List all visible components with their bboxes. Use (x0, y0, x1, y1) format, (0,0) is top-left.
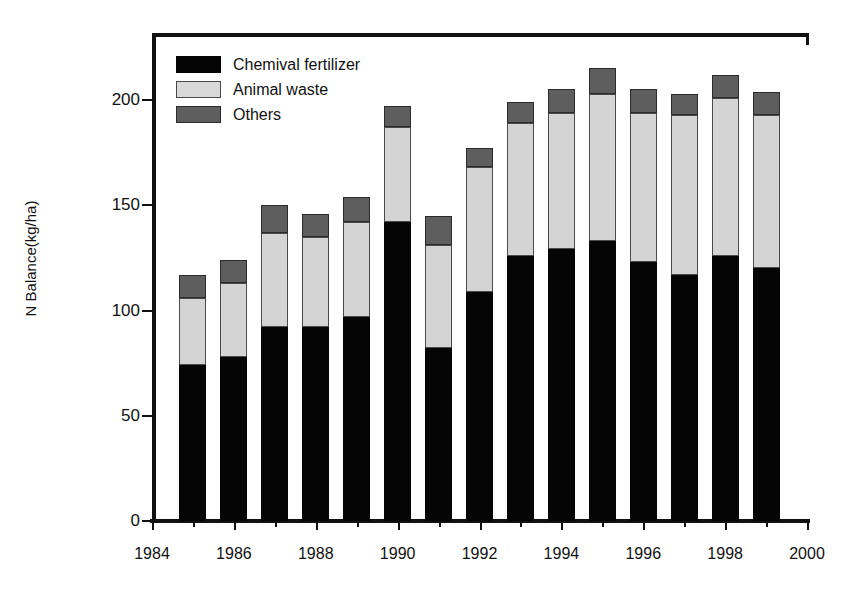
bar-segment-1988-fert (302, 327, 329, 521)
bar-segment-1992-fert (466, 292, 493, 521)
bar-segment-1995-fert (589, 241, 616, 521)
bar-1994 (548, 89, 575, 521)
bar-segment-1997-fert (671, 275, 698, 521)
x-tick-label-1984: 1984 (117, 545, 187, 563)
x-tick-2000 (807, 521, 809, 530)
bar-1987 (261, 205, 288, 521)
x-tick-label-1990: 1990 (363, 545, 433, 563)
bar-1986 (220, 260, 247, 521)
bar-segment-1989-fert (343, 317, 370, 521)
bar-segment-1986-animal (220, 283, 247, 357)
x-tick-1986 (234, 521, 236, 530)
x-minor-tick-1991 (439, 521, 441, 527)
legend-swatch-icon-animal (176, 81, 221, 98)
x-minor-tick-1987 (275, 521, 277, 527)
bar-segment-1997-animal (671, 115, 698, 275)
bar-1998 (712, 75, 739, 521)
x-minor-tick-1999 (766, 521, 768, 527)
bar-1993 (507, 102, 534, 521)
bar-segment-1999-fert (753, 268, 780, 521)
bar-segment-1994-animal (548, 113, 575, 250)
legend-label-1: Animal waste (233, 81, 328, 99)
bar-segment-1993-fert (507, 256, 534, 521)
bar-1991 (425, 216, 452, 521)
bar-segment-1985-animal (179, 298, 206, 365)
legend-label-2: Others (233, 106, 281, 124)
chart-legend: Chemival fertilizerAnimal wasteOthers (176, 52, 360, 127)
bar-segment-1994-fert (548, 249, 575, 521)
x-tick-label-1992: 1992 (445, 545, 515, 563)
bar-1989 (343, 197, 370, 521)
chart-figure: N Balance(kg/ha) 050100150200 1984198619… (0, 0, 855, 604)
bar-segment-1985-others (179, 275, 206, 298)
x-tick-label-1994: 1994 (526, 545, 596, 563)
bar-segment-1990-others (384, 106, 411, 127)
x-minor-tick-1993 (520, 521, 522, 527)
bar-segment-1991-animal (425, 245, 452, 348)
x-tick-1994 (561, 521, 563, 530)
bar-series-group (0, 0, 855, 521)
x-minor-tick-1989 (357, 521, 359, 527)
bar-segment-1987-others (261, 205, 288, 232)
legend-label-0: Chemival fertilizer (233, 56, 360, 74)
x-tick-label-2000: 2000 (772, 545, 842, 563)
x-tick-1998 (725, 521, 727, 530)
bar-segment-1996-others (630, 89, 657, 112)
bar-segment-1995-others (589, 68, 616, 93)
bar-segment-1998-fert (712, 256, 739, 521)
x-tick-1996 (643, 521, 645, 530)
bar-segment-1993-animal (507, 123, 534, 256)
bar-segment-1989-others (343, 197, 370, 222)
bar-segment-1997-others (671, 94, 698, 115)
x-minor-tick-1995 (602, 521, 604, 527)
bar-segment-1996-fert (630, 262, 657, 521)
x-tick-1990 (398, 521, 400, 530)
x-minor-tick-1997 (684, 521, 686, 527)
bar-segment-1993-others (507, 102, 534, 123)
bar-1996 (630, 89, 657, 521)
bar-segment-1987-fert (261, 327, 288, 521)
x-tick-1984 (152, 521, 154, 530)
bar-1992 (466, 148, 493, 521)
x-tick-1992 (480, 521, 482, 530)
bar-segment-1990-animal (384, 127, 411, 222)
x-tick-label-1986: 1986 (199, 545, 269, 563)
bar-segment-1988-animal (302, 237, 329, 328)
bar-segment-1992-animal (466, 167, 493, 291)
bar-1985 (179, 275, 206, 521)
bar-segment-1991-fert (425, 348, 452, 521)
legend-item-2: Others (176, 102, 360, 127)
bar-segment-1991-others (425, 216, 452, 245)
x-tick-label-1998: 1998 (690, 545, 760, 563)
x-tick-1988 (316, 521, 318, 530)
bar-segment-1998-others (712, 75, 739, 98)
bar-1988 (302, 214, 329, 521)
bar-segment-1999-animal (753, 115, 780, 269)
bar-segment-1999-others (753, 92, 780, 115)
bar-segment-1986-fert (220, 357, 247, 521)
legend-item-0: Chemival fertilizer (176, 52, 360, 77)
bar-segment-1988-others (302, 214, 329, 237)
bar-segment-1998-animal (712, 98, 739, 256)
bar-segment-1987-animal (261, 233, 288, 328)
bar-segment-1986-others (220, 260, 247, 283)
legend-item-1: Animal waste (176, 77, 360, 102)
x-minor-tick-1985 (193, 521, 195, 527)
legend-swatch-icon-fert (176, 56, 221, 73)
bar-1999 (753, 92, 780, 521)
bar-1995 (589, 68, 616, 521)
bar-segment-1992-others (466, 148, 493, 167)
x-tick-label-1988: 1988 (281, 545, 351, 563)
bar-segment-1989-animal (343, 222, 370, 317)
bar-segment-1985-fert (179, 365, 206, 521)
bar-1997 (671, 94, 698, 521)
x-tick-label-1996: 1996 (608, 545, 678, 563)
bar-segment-1996-animal (630, 113, 657, 262)
bar-segment-1994-others (548, 89, 575, 112)
bar-segment-1990-fert (384, 222, 411, 521)
legend-swatch-icon-others (176, 106, 221, 123)
bar-1990 (384, 106, 411, 521)
bar-segment-1995-animal (589, 94, 616, 241)
